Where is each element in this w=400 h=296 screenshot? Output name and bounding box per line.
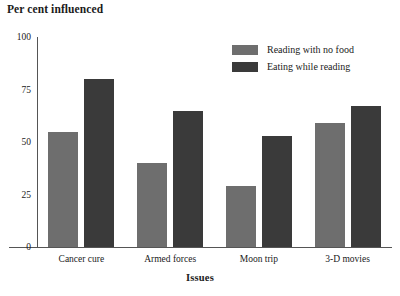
x-axis-category-label: Armed forces	[144, 254, 196, 264]
legend-item-reading-with-no-food: Reading with no food	[232, 41, 354, 58]
x-axis-category-label: Moon trip	[240, 254, 278, 264]
y-axis-tick-label: 75	[22, 85, 32, 95]
x-axis-category-label: 3-D movies	[325, 254, 370, 264]
bar-chart: Per cent influenced 0255075100 Cancer cu…	[0, 0, 400, 296]
legend-swatch-icon	[232, 62, 258, 72]
legend-item-eating-while-reading: Eating while reading	[232, 58, 354, 75]
y-axis-tick-label: 0	[26, 242, 31, 252]
chart-legend: Reading with no food Eating while readin…	[232, 41, 354, 75]
legend-label: Eating while reading	[267, 61, 350, 72]
x-axis-line	[9, 247, 392, 248]
legend-label: Reading with no food	[267, 44, 354, 55]
bar	[173, 111, 203, 248]
chart-title: Per cent influenced	[7, 3, 103, 15]
bar	[48, 132, 78, 248]
bar	[137, 163, 167, 247]
bar	[262, 136, 292, 247]
y-axis-tick-label: 100	[17, 32, 31, 42]
y-axis-tick-label: 25	[22, 190, 32, 200]
x-axis-category-label: Cancer cure	[59, 254, 105, 264]
y-axis-tick-label: 50	[22, 137, 32, 147]
bar	[84, 79, 114, 247]
x-axis-title: Issues	[0, 272, 400, 283]
bar	[351, 106, 381, 247]
bar	[315, 123, 345, 247]
legend-swatch-icon	[232, 45, 258, 55]
bar	[226, 186, 256, 247]
